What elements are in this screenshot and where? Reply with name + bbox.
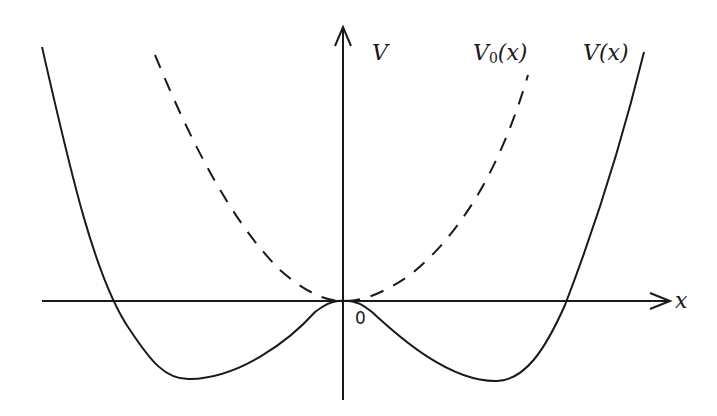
curve-v0-label: V0(x) <box>473 42 527 65</box>
y-axis-label: V <box>372 42 388 64</box>
x-axis-label: x <box>675 290 687 312</box>
curve-v-label: V(x) <box>583 42 628 64</box>
x-axis <box>42 293 670 309</box>
potential-diagram: V V0(x) V(x) x 0 <box>0 0 717 416</box>
y-axis <box>335 27 351 400</box>
curve-v0-label-subscript: 0 <box>489 50 498 66</box>
origin-label: 0 <box>355 310 366 327</box>
curve-v0-label-arg: (x) <box>498 40 528 65</box>
curve-v0-label-base: V <box>473 40 489 65</box>
curve-v0-dashed <box>155 55 528 301</box>
